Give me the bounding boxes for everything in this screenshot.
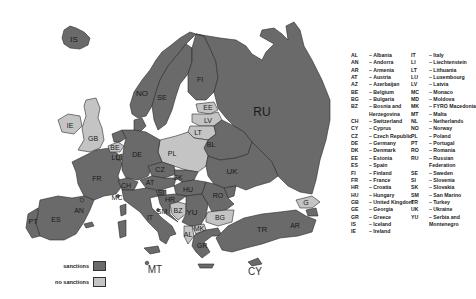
- key-code: PL: [411, 133, 429, 140]
- key-entry-az: AZ– Azerbaijan: [351, 81, 413, 88]
- key-entry-si: SI– Slovenia: [411, 177, 476, 184]
- key-name: – Andorra: [369, 59, 393, 66]
- label-sm: SM: [157, 208, 168, 215]
- key-code: SI: [411, 177, 429, 184]
- key-code: IS: [351, 221, 369, 228]
- key-entry-hu: HU– Hungary: [351, 192, 413, 199]
- key-entry-ee: EE– Estonia: [351, 155, 413, 162]
- legend-label-sanctions: sanctions: [63, 263, 89, 269]
- key-entry-sm: SM– San Marino: [411, 192, 476, 199]
- country-key-column-1: AL– AlbaniaAN– AndorraAR– ArmeniaAT– Aus…: [351, 52, 413, 236]
- key-code: GB: [351, 199, 369, 206]
- key-entry-es: ES– Spain: [351, 162, 413, 169]
- label-tr: TR: [257, 225, 268, 234]
- label-uk: UK: [226, 167, 238, 176]
- key-name: – Turkey: [429, 199, 450, 206]
- label-de: DE: [132, 151, 142, 158]
- key-entry-at: AT– Austria: [351, 74, 413, 81]
- key-name: – Hungary: [369, 192, 394, 199]
- key-code: LV: [411, 81, 429, 88]
- key-entry-continuation: Herzegovina: [351, 111, 413, 118]
- key-entry-ro: RO– Romania: [411, 147, 476, 154]
- key-code: PT: [411, 140, 429, 147]
- key-name: – Austria: [369, 74, 391, 81]
- label-es: ES: [51, 216, 61, 223]
- key-name: – Liechtenstein: [429, 59, 467, 66]
- label-sk: SK: [173, 174, 183, 181]
- label-at: AT: [146, 179, 155, 186]
- country-an: [80, 198, 84, 202]
- legend-swatch-no-sanctions: [93, 277, 106, 287]
- key-name: – Malta: [429, 111, 447, 118]
- key-entry-tr: TR– Turkey: [411, 199, 476, 206]
- key-name: – Russian: [429, 155, 454, 162]
- key-code: AN: [351, 59, 369, 66]
- key-name: – Sweden: [429, 170, 453, 177]
- key-entry-ge: GE– Georgia: [351, 206, 413, 213]
- label-ge: G: [303, 199, 308, 206]
- label-an: AN: [74, 207, 84, 214]
- key-name: – Estonia: [369, 155, 392, 162]
- label-ie: IE: [67, 122, 74, 129]
- key-entry-md: MD– Moldova: [411, 96, 476, 103]
- key-entry-fi: FI– Finland: [351, 170, 413, 177]
- key-name: – Albania: [369, 52, 392, 59]
- key-code: EE: [351, 155, 369, 162]
- key-name: – Slovenia: [429, 177, 455, 184]
- key-code: GR: [351, 214, 369, 221]
- key-code: RO: [411, 147, 429, 154]
- key-code: ES: [351, 162, 369, 169]
- key-code: CH: [351, 118, 369, 125]
- key-entry-pt: PT– Portugal: [411, 140, 476, 147]
- key-code: BZ: [351, 103, 369, 110]
- country-key-column-2: IT– ItalyLI– LiechtensteinLT– LithuaniaL…: [411, 52, 476, 228]
- label-yu: YU: [186, 208, 197, 217]
- key-entry-nl: NL– Netherlands: [411, 118, 476, 125]
- legend-item-sanctions: sanctions: [40, 258, 106, 274]
- key-code: NO: [411, 125, 429, 132]
- key-entry-it: IT– Italy: [411, 52, 476, 59]
- key-code: MT: [411, 111, 429, 118]
- key-name: – Romania: [429, 147, 455, 154]
- key-name: – Moldova: [429, 96, 454, 103]
- key-code: HU: [351, 192, 369, 199]
- key-name: – France: [369, 177, 390, 184]
- key-code: CY: [351, 125, 369, 132]
- key-name: – San Marino: [429, 192, 461, 199]
- key-entry-be: BE– Belgium: [351, 89, 413, 96]
- key-entry-mk: MK– FYRO Macedonia: [411, 103, 476, 110]
- key-entry-bg: BG– Bulgaria: [351, 96, 413, 103]
- key-entry-se: SE– Sweden: [411, 170, 476, 177]
- label-hr: HR: [165, 196, 175, 203]
- key-entry-mc: MC– Monaco: [411, 89, 476, 96]
- key-code: LU: [411, 74, 429, 81]
- key-entry-lt: LT– Lithuania: [411, 67, 476, 74]
- key-code: BG: [351, 96, 369, 103]
- key-entry-cy: CY– Cyprus: [351, 125, 413, 132]
- key-code: FR: [351, 177, 369, 184]
- key-name: – FYRO Macedonia: [429, 103, 476, 110]
- key-entry-lu: LU– Luxembourg: [411, 74, 476, 81]
- key-name: – Netherlands: [429, 118, 463, 125]
- key-name: – Croatia: [369, 184, 391, 191]
- label-hu: HU: [183, 186, 193, 193]
- label-lu: LU: [112, 154, 121, 161]
- key-name: – Finland: [369, 170, 392, 177]
- key-name: – Monaco: [429, 89, 453, 96]
- key-code: BE: [351, 89, 369, 96]
- country-dk: [134, 118, 146, 132]
- key-name: – Ireland: [369, 228, 390, 235]
- label-fi: FI: [197, 76, 203, 83]
- key-code: AT: [351, 74, 369, 81]
- label-mt: MT: [148, 264, 162, 275]
- label-ro: RO: [213, 192, 224, 199]
- key-entry-li: LI– Liechtenstein: [411, 59, 476, 66]
- key-code: RU: [411, 155, 429, 162]
- legend-item-no-sanctions: no sanctions: [40, 274, 106, 290]
- label-si: SI: [158, 189, 165, 196]
- key-code: MC: [411, 89, 429, 96]
- key-name: – Poland: [429, 133, 451, 140]
- key-code: DE: [351, 140, 369, 147]
- label-al: AL: [184, 231, 193, 238]
- key-code: IT: [411, 52, 429, 59]
